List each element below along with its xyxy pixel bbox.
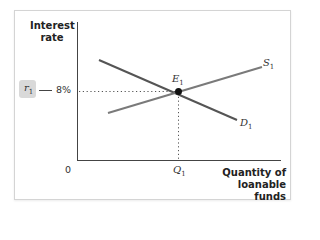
s1-symbol: S — [263, 57, 270, 68]
q1-label: Q1 — [173, 164, 186, 178]
s1-label: S1 — [263, 57, 274, 71]
q1-symbol: Q — [173, 164, 181, 175]
r1-subscript: 1 — [29, 88, 33, 96]
equilibrium-point — [175, 88, 182, 95]
e1-subscript: 1 — [179, 79, 183, 87]
y-axis-label-line1: Interest — [30, 20, 74, 32]
rate-tick-label: 8% — [56, 84, 71, 95]
d1-symbol: D — [240, 117, 248, 128]
e1-label: E1 — [172, 73, 184, 87]
x-axis-label: Quantity of loanable funds — [210, 167, 286, 203]
s1-subscript: 1 — [270, 63, 274, 71]
d1-label: D1 — [240, 117, 253, 131]
y-axis-label-line2: rate — [30, 32, 74, 44]
d1-subscript: 1 — [248, 123, 252, 131]
q1-subscript: 1 — [181, 170, 185, 178]
origin-label: 0 — [65, 164, 71, 175]
x-axis-label-line1: Quantity of — [210, 167, 286, 179]
y-axis-label: Interest rate — [30, 20, 74, 44]
x-axis-label-line2: loanable funds — [210, 179, 286, 203]
demand-curve — [99, 60, 237, 120]
r1-label: r1 — [24, 82, 33, 96]
